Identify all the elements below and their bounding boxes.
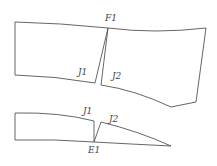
label-e1: E1 [87,145,100,155]
pattern-diagram: F1 J1 J2 J1 J2 E1 [0,0,217,166]
label-j2-lower: J2 [107,114,119,124]
lower-right-panel [94,122,171,146]
label-j1-lower: J1 [81,106,92,116]
upper-right-panel [101,28,206,107]
label-j2-upper: J2 [110,71,122,81]
label-j1-upper: J1 [76,67,87,77]
lower-left-panel [15,113,94,142]
label-f1: F1 [104,13,117,23]
upper-left-panel [15,22,108,83]
